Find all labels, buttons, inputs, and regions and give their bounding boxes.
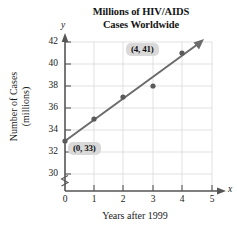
x-tick-label-2: 2 [115,194,131,204]
chart-figure: Millions of HIV/AIDS Cases Worldwide Num… [0,0,237,231]
x-tick-label-4: 4 [174,194,190,204]
annotation-callout-0-33: (0, 33) [68,142,101,155]
data-point [62,138,67,143]
data-point [120,94,125,99]
x-tick-label-3: 3 [145,194,161,204]
data-point [150,83,155,88]
annotation-callout-4-41: (4, 41) [126,43,159,56]
y-axis-letter: y [61,20,65,30]
x-tick-label-0: 0 [57,194,73,204]
data-point [91,116,96,121]
y-tick-label-38: 38 [38,80,58,90]
y-axis-break-icon [62,176,69,187]
y-tick-label-40: 40 [38,58,58,68]
x-axis-letter: x [228,184,232,194]
x-tick-label-5: 5 [204,194,220,204]
y-axis [62,33,69,191]
y-tick-label-34: 34 [38,124,58,134]
y-tick-label-36: 36 [38,102,58,112]
data-point [179,50,184,55]
y-tick-label-30: 30 [38,168,58,178]
x-tick-label-1: 1 [86,194,102,204]
x-axis-tick-marks [94,185,212,191]
y-tick-label-32: 32 [38,146,58,156]
y-tick-label-42: 42 [38,36,58,46]
